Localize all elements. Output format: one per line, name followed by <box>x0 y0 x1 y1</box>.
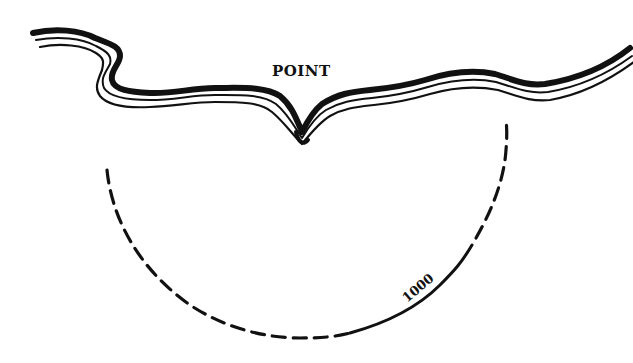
point-label: POINT <box>272 62 331 80</box>
depth-contour <box>107 120 507 338</box>
coastline-outer-line <box>33 30 630 132</box>
contour-dashed-segment <box>107 170 350 338</box>
contour-dashed-upper-right <box>476 120 507 238</box>
coastline <box>33 30 633 144</box>
diagram-canvas: POINT 1000 <box>0 0 633 363</box>
contour-depth-label: 1000 <box>399 271 436 306</box>
